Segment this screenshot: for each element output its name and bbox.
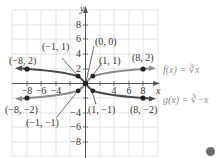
- x-tick-label: −8: [22, 85, 33, 96]
- point-1-m1: [90, 88, 95, 93]
- f-left-arrow-icon: [15, 96, 22, 101]
- point-m8-m2: [24, 95, 29, 100]
- g-right-arrow-icon: [149, 96, 156, 101]
- point-m1-1: [76, 74, 81, 79]
- y-tick-label: −6: [70, 121, 81, 132]
- point-m1-m1: [76, 88, 81, 93]
- point-m8-2: [24, 66, 29, 71]
- label-m1-1: (−1, 1): [42, 41, 69, 53]
- point-0-0: [83, 81, 89, 87]
- g-left-arrow-icon: [15, 66, 22, 71]
- label-m8-2: (−8, 2): [9, 55, 36, 67]
- f-function-label: f(x) = ∛x: [163, 63, 200, 76]
- g-function-label: g(x) = ∛−x: [163, 93, 209, 106]
- x-axis-label: x: [155, 85, 161, 96]
- point-8-2: [140, 66, 145, 71]
- x-tick-label: 6: [127, 85, 132, 96]
- cube-root-graph: −8 −6 −4 4 6 8 8 6 4 2 −4 −6 −8 y x: [0, 0, 217, 158]
- label-m8-m2: (−8, −2): [5, 104, 38, 116]
- y-tick-label: −8: [70, 136, 81, 147]
- label-0-0: (0, 0): [95, 36, 117, 48]
- label-8-2: (8, 2): [132, 52, 154, 64]
- point-1-1: [90, 74, 95, 79]
- point-labels: (0, 0) (−1, 1) (1, 1) (−8, 2) (8, 2) (−8…: [5, 36, 157, 129]
- y-tick-label: −4: [70, 107, 81, 118]
- label-m1-m1: (−1, −1): [26, 117, 59, 129]
- y-tick-label: 2: [76, 63, 81, 74]
- y-tick-label: 4: [76, 48, 81, 59]
- f-right-arrow-icon: [149, 66, 156, 71]
- corner-dot-icon: [206, 147, 215, 156]
- label-1-1: (1, 1): [99, 55, 121, 67]
- y-tick-label: 6: [76, 33, 81, 44]
- label-8-m2: (8, −2): [130, 104, 157, 116]
- y-axis-label: y: [79, 3, 85, 14]
- x-tick-label: −6: [36, 85, 47, 96]
- x-tick-label: 8: [141, 85, 146, 96]
- y-tick-label: 8: [76, 19, 81, 30]
- point-8-m2: [140, 95, 145, 100]
- label-1-m1: (1, −1): [88, 104, 115, 116]
